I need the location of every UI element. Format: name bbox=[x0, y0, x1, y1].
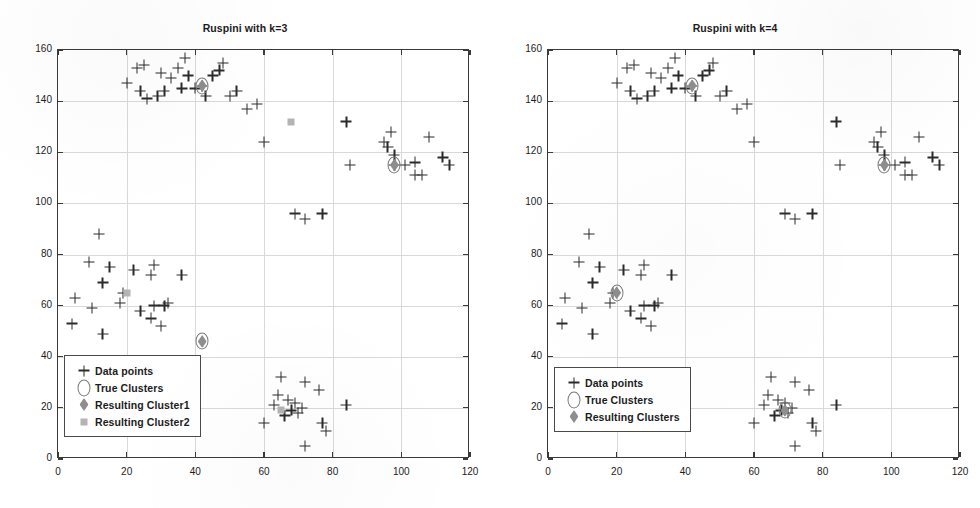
plus-marker-icon bbox=[300, 377, 311, 388]
plus-marker-icon bbox=[444, 160, 455, 171]
plus-marker-icon bbox=[714, 91, 725, 102]
plus-marker-icon bbox=[87, 303, 98, 314]
chart-panel-k4: Ruspini with k=4 02040608010012014016002… bbox=[490, 0, 980, 508]
plus-marker-icon bbox=[224, 91, 235, 102]
plus-marker-icon bbox=[927, 152, 938, 163]
y-axis-tick bbox=[58, 305, 63, 306]
plus-marker-icon bbox=[173, 62, 184, 73]
plus-marker-icon bbox=[379, 137, 390, 148]
y-axis-tick bbox=[463, 254, 468, 255]
plus-marker-icon bbox=[779, 397, 790, 408]
y-axis-tick-label: 120 bbox=[14, 145, 52, 156]
plus-marker-icon bbox=[135, 305, 146, 316]
plus-marker-icon bbox=[687, 80, 698, 91]
plus-marker-icon bbox=[569, 377, 580, 388]
plus-marker-icon bbox=[810, 425, 821, 436]
y-axis-tick bbox=[58, 203, 63, 204]
plus-marker-icon bbox=[317, 418, 328, 429]
gridline-horizontal bbox=[58, 255, 468, 256]
plus-marker-icon bbox=[313, 384, 324, 395]
plus-marker-icon bbox=[410, 170, 421, 181]
legend-row: Data points bbox=[73, 362, 190, 379]
gridline-horizontal bbox=[548, 101, 958, 102]
y-axis-tick bbox=[58, 49, 63, 50]
legend-row: Resulting Cluster2 bbox=[73, 413, 190, 430]
x-axis-tick bbox=[469, 452, 470, 457]
y-axis-tick bbox=[953, 407, 958, 408]
plus-marker-icon bbox=[666, 83, 677, 94]
y-axis-tick bbox=[548, 254, 553, 255]
plus-marker-icon bbox=[382, 142, 393, 153]
plus-marker-icon bbox=[790, 213, 801, 224]
plus-marker-icon bbox=[721, 85, 732, 96]
plus-marker-icon bbox=[900, 157, 911, 168]
chart-panel-k3: Ruspini with k=3 02040608010012014016002… bbox=[0, 0, 490, 508]
y-axis-tick bbox=[953, 305, 958, 306]
y-axis-tick bbox=[58, 152, 63, 153]
plus-marker-icon bbox=[145, 313, 156, 324]
y-axis-tick bbox=[953, 356, 958, 357]
plus-marker-icon bbox=[834, 160, 845, 171]
plus-marker-icon bbox=[176, 269, 187, 280]
y-axis-tick bbox=[548, 407, 553, 408]
plus-marker-icon bbox=[766, 372, 777, 383]
diamond-marker-icon bbox=[570, 410, 579, 423]
x-axis-tick bbox=[822, 50, 823, 55]
y-axis-tick-label: 60 bbox=[504, 299, 542, 310]
x-axis-tick bbox=[547, 452, 548, 457]
plus-marker-icon bbox=[293, 407, 304, 418]
x-axis-tick bbox=[753, 50, 754, 55]
plus-marker-icon bbox=[646, 68, 657, 79]
plus-marker-icon bbox=[628, 60, 639, 71]
square-marker-icon bbox=[288, 118, 295, 125]
y-axis-tick bbox=[58, 254, 63, 255]
plus-marker-icon bbox=[272, 390, 283, 401]
plus-marker-icon bbox=[97, 328, 108, 339]
plus-marker-icon bbox=[214, 65, 225, 76]
x-axis-tick bbox=[753, 452, 754, 457]
plus-marker-icon bbox=[783, 407, 794, 418]
plus-marker-icon bbox=[759, 400, 770, 411]
plus-marker-icon bbox=[276, 372, 287, 383]
plus-marker-icon bbox=[320, 425, 331, 436]
plus-marker-icon bbox=[666, 269, 677, 280]
y-axis-tick bbox=[548, 101, 553, 102]
gridline-vertical bbox=[754, 50, 755, 457]
plus-marker-icon bbox=[176, 83, 187, 94]
gridline-vertical bbox=[333, 50, 334, 457]
plus-marker-icon bbox=[594, 262, 605, 273]
diamond-marker-icon bbox=[80, 398, 89, 411]
x-axis-tick bbox=[57, 50, 58, 55]
y-axis-tick bbox=[463, 203, 468, 204]
plus-marker-icon bbox=[317, 208, 328, 219]
circle-marker-icon bbox=[78, 379, 91, 396]
x-axis-tick-label: 0 bbox=[38, 466, 78, 477]
legend-symbol bbox=[73, 413, 95, 430]
plus-marker-icon bbox=[604, 298, 615, 309]
legend-symbol bbox=[563, 391, 585, 408]
plus-marker-icon bbox=[97, 277, 108, 288]
plus-marker-icon bbox=[646, 321, 657, 332]
circle-marker-icon bbox=[778, 402, 791, 419]
plus-marker-icon bbox=[135, 85, 146, 96]
y-axis-tick bbox=[58, 101, 63, 102]
plus-marker-icon bbox=[573, 257, 584, 268]
plus-marker-icon bbox=[584, 229, 595, 240]
x-axis-tick bbox=[263, 452, 264, 457]
gridline-horizontal bbox=[548, 152, 958, 153]
legend-symbol bbox=[73, 379, 95, 396]
plus-marker-icon bbox=[652, 298, 663, 309]
circle-marker-icon bbox=[196, 333, 209, 350]
x-axis-tick bbox=[616, 50, 617, 55]
plus-marker-icon bbox=[587, 328, 598, 339]
plus-marker-icon bbox=[790, 377, 801, 388]
y-axis-tick bbox=[58, 458, 63, 459]
legend-label: True Clusters bbox=[95, 382, 163, 394]
y-axis-tick bbox=[548, 152, 553, 153]
plus-marker-icon bbox=[707, 57, 718, 68]
y-axis-tick-label: 160 bbox=[14, 43, 52, 54]
gridline-vertical bbox=[891, 50, 892, 457]
x-axis-tick bbox=[332, 452, 333, 457]
x-axis-tick-label: 80 bbox=[313, 466, 353, 477]
plus-marker-icon bbox=[344, 160, 355, 171]
